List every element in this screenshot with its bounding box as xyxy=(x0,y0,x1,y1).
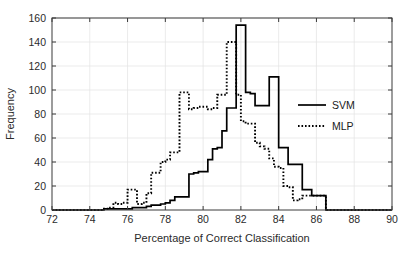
x-tick-label: 74 xyxy=(84,213,96,225)
figure-container: 7274767880828486889002040608010012014016… xyxy=(0,0,413,254)
x-tick-label: 90 xyxy=(386,213,398,225)
y-tick-label: 120 xyxy=(28,60,46,72)
y-axis-title: Frequency xyxy=(4,88,16,140)
x-tick-label: 84 xyxy=(273,213,285,225)
legend-label-mlp: MLP xyxy=(332,120,354,132)
x-tick-label: 86 xyxy=(311,213,323,225)
y-tick-label: 80 xyxy=(34,108,46,120)
x-tick-label: 78 xyxy=(159,213,171,225)
y-tick-label: 60 xyxy=(34,132,46,144)
legend-label-svm: SVM xyxy=(332,99,355,111)
x-axis-title: Percentage of Correct Classification xyxy=(134,232,309,244)
y-tick-label: 40 xyxy=(34,156,46,168)
y-tick-label: 100 xyxy=(28,84,46,96)
histogram-chart: 7274767880828486889002040608010012014016… xyxy=(0,0,413,254)
x-tick-label: 88 xyxy=(348,213,360,225)
y-tick-label: 160 xyxy=(28,12,46,24)
y-tick-label: 140 xyxy=(28,36,46,48)
y-tick-label: 20 xyxy=(34,180,46,192)
x-tick-label: 72 xyxy=(46,213,58,225)
x-tick-label: 76 xyxy=(122,213,134,225)
x-tick-label: 82 xyxy=(235,213,247,225)
y-tick-label: 0 xyxy=(40,204,46,216)
x-tick-label: 80 xyxy=(197,213,209,225)
